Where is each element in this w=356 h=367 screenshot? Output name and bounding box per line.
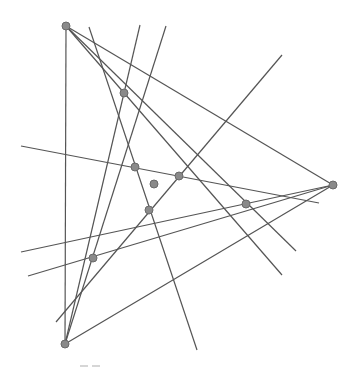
point-P2 xyxy=(131,163,139,171)
construction-points xyxy=(89,89,250,262)
geometry-diagram xyxy=(0,0,356,367)
point-P1 xyxy=(120,89,128,97)
vertex-C xyxy=(61,340,69,348)
point-P3 xyxy=(175,172,183,180)
point-G xyxy=(150,180,158,188)
vertex-A xyxy=(62,22,70,30)
construction-lines xyxy=(21,25,333,350)
line-5 xyxy=(89,27,197,350)
vertex-B xyxy=(329,181,337,189)
point-P5 xyxy=(242,200,250,208)
point-P4 xyxy=(145,206,153,214)
point-P6 xyxy=(89,254,97,262)
line-11 xyxy=(28,185,333,276)
line-6 xyxy=(65,25,140,344)
line-0 xyxy=(65,26,66,344)
line-1 xyxy=(66,26,333,185)
